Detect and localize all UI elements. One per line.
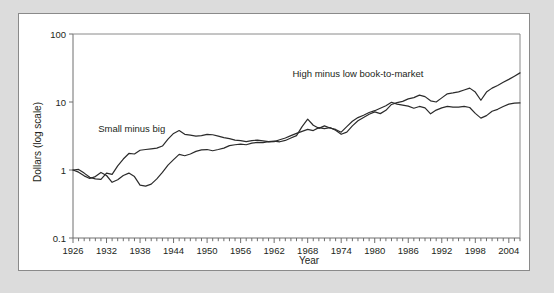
x-tick-label: 1974 <box>331 245 352 256</box>
x-tick-label: 1980 <box>364 245 385 256</box>
x-tick-label: 1986 <box>398 245 419 256</box>
y-axis-title: Dollars (log scale) <box>32 102 43 182</box>
x-tick-label: 1926 <box>62 245 83 256</box>
line-chart: 1001010.1 192619321938194419501956196219… <box>19 14 529 270</box>
x-tick-label: 1938 <box>129 245 150 256</box>
x-tick-label: 1992 <box>431 245 452 256</box>
x-tick-label: 2004 <box>498 245 519 256</box>
y-tick-label: 1 <box>61 165 66 176</box>
figure-page: 1001010.1 192619321938194419501956196219… <box>0 0 554 293</box>
y-tick-label: 10 <box>55 97 66 108</box>
x-tick-label: 1944 <box>163 245 184 256</box>
x-tick-label: 1956 <box>230 245 251 256</box>
x-axis-title: Year <box>299 255 320 266</box>
x-tick-label: 1950 <box>197 245 218 256</box>
x-tick-label: 1962 <box>264 245 285 256</box>
x-tick-label: 1998 <box>465 245 486 256</box>
figure-frame: 1001010.1 192619321938194419501956196219… <box>18 13 530 271</box>
y-tick-label: 0.1 <box>53 233 66 244</box>
y-tick-label: 100 <box>50 29 66 40</box>
x-tick-label: 1932 <box>96 245 117 256</box>
series-annotation-label: Small minus big <box>98 123 165 134</box>
series-annotation-label: High minus low book-to-market <box>292 68 423 79</box>
